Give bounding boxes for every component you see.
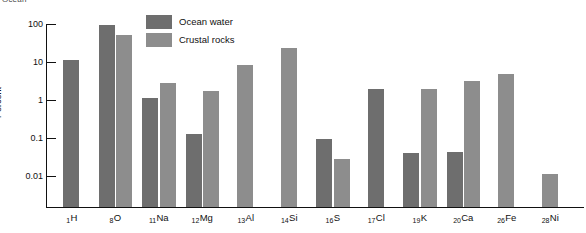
x-axis-label-na: 11Na [149,212,169,223]
x-axis-labels: 1H8O11Na12Mg13Al14Si16S17Cl19K20Ca26Fe28… [47,209,584,231]
element-abundance-bar-chart: Ocean 1001010.10.01 Percent 1H8O11Na12Mg… [0,0,586,233]
legend-label-ocean-water: Ocean water [179,16,233,27]
bar-crustal-28Ni [542,174,558,207]
x-axis-label-si: 14Si [281,212,298,223]
y-tick-label: 10 [0,57,43,67]
bar-crustal-14Si [281,48,297,207]
x-axis-line [46,207,584,208]
legend-swatch-ocean-water [146,15,172,29]
bar-crustal-8O [116,35,132,207]
legend-item-ocean-water: Ocean water [146,14,233,29]
x-axis-label-k: 19K [413,212,427,223]
bars-layer [47,24,584,207]
x-axis-label-ni: 28Ni [542,212,559,223]
x-axis-label-o: 8O [109,212,121,223]
legend-label-crustal-rocks: Crustal rocks [179,34,234,45]
y-tick-label: 0.01 [0,171,43,181]
legend: Ocean water Crustal rocks [146,14,286,54]
x-axis-label-ca: 20Ca [453,212,473,223]
x-axis-label-fe: 26Fe [497,212,516,223]
x-axis-label-h: 1H [66,212,77,223]
bar-ocean-1H [63,60,79,207]
bar-ocean-16S [316,139,332,207]
x-axis-label-s: 16S [326,212,340,223]
bar-crustal-12Mg [203,91,219,207]
x-axis-label-mg: 12Mg [192,212,213,223]
bar-crustal-26Fe [498,74,514,207]
y-tick-label: 0.1 [0,133,43,143]
y-axis-title: Percent [0,87,3,118]
bar-ocean-12Mg [186,134,202,207]
bar-crustal-11Na [160,83,176,207]
x-axis-label-al: 13Al [237,212,254,223]
bar-crustal-19K [421,89,437,207]
bar-crustal-13Al [237,65,253,207]
legend-item-crustal-rocks: Crustal rocks [146,32,234,47]
y-tick-label: 1 [0,95,43,105]
bar-ocean-8O [99,25,115,207]
bar-ocean-20Ca [447,152,463,207]
bar-crustal-20Ca [464,81,480,207]
legend-swatch-crustal-rocks [146,33,172,47]
bar-ocean-11Na [142,98,158,207]
y-tick-label: 100 [0,19,43,29]
bar-ocean-19K [403,153,419,207]
x-axis-label-cl: 17Cl [368,212,385,223]
clipped-title-fragment: Ocean [2,0,27,2]
bar-crustal-16S [334,159,350,207]
bar-ocean-17Cl [368,89,384,207]
